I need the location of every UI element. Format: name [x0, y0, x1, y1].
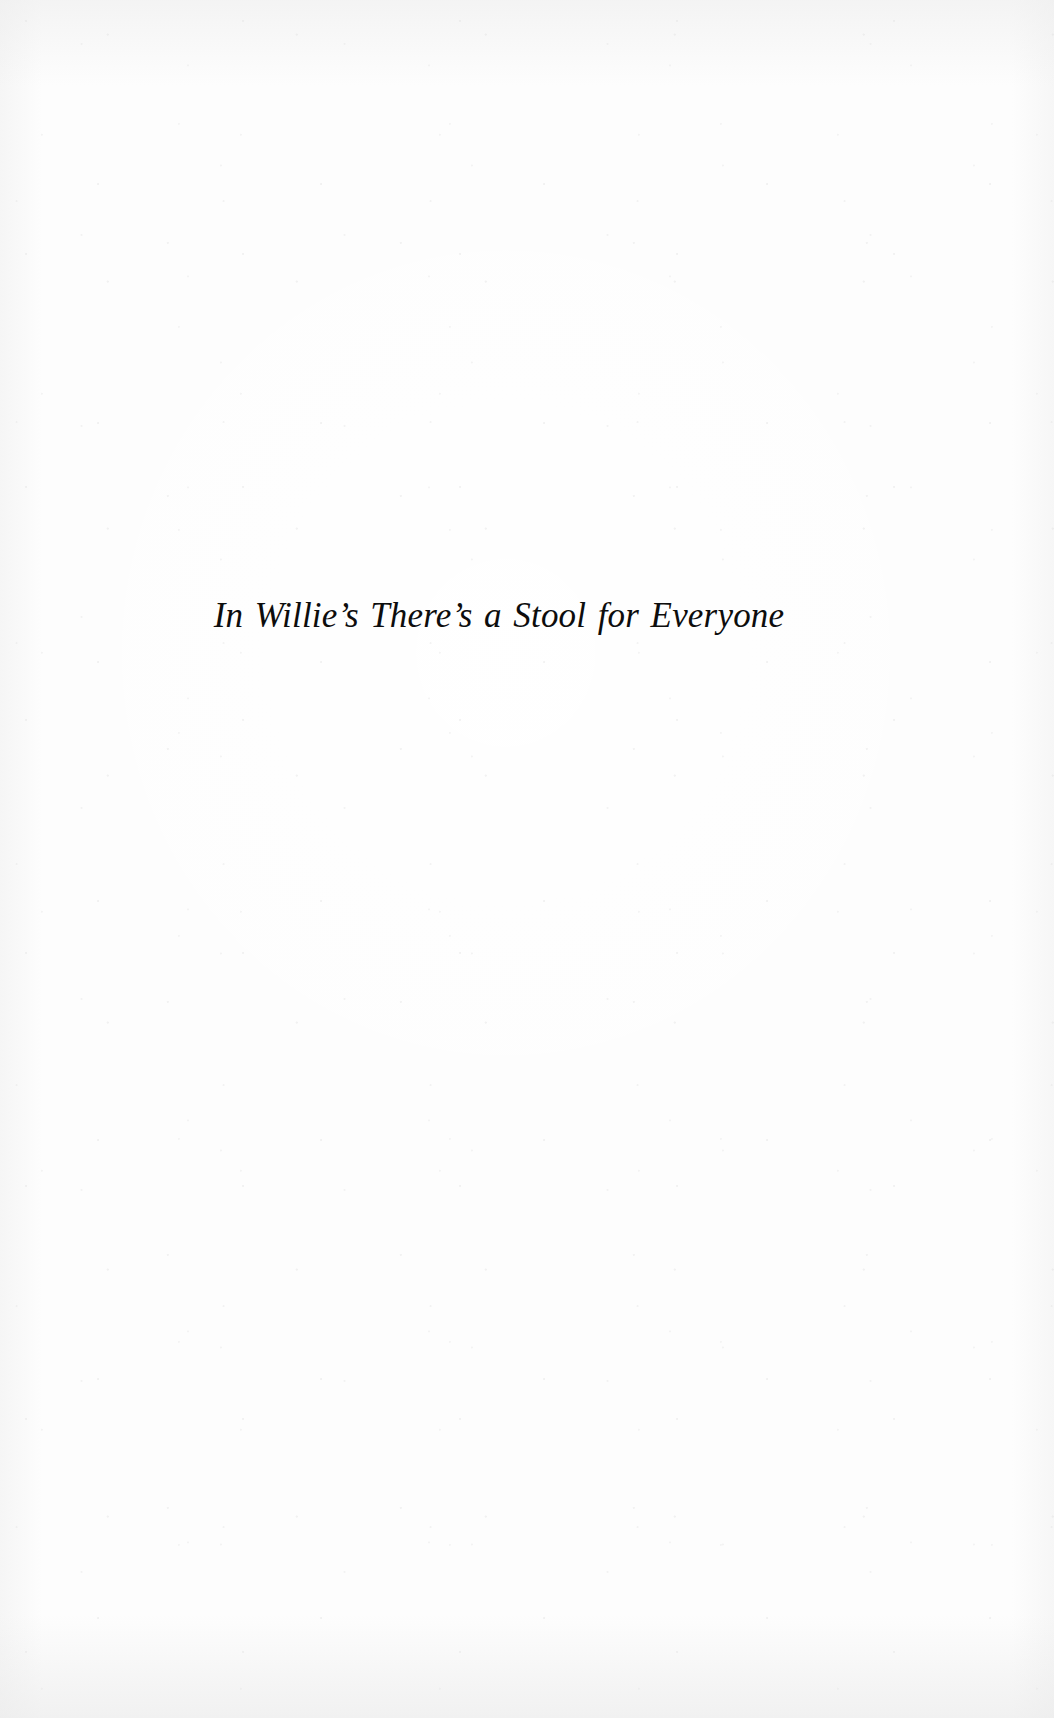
scanned-page: In Willie’s There’s a Stool for Everyone	[0, 0, 1054, 1718]
scan-shading-overlay	[0, 0, 1054, 1718]
part-title: In Willie’s There’s a Stool for Everyone	[214, 596, 785, 635]
part-title-block: In Willie’s There’s a Stool for Everyone	[0, 596, 1054, 635]
scan-speckle-overlay	[0, 0, 1054, 1718]
